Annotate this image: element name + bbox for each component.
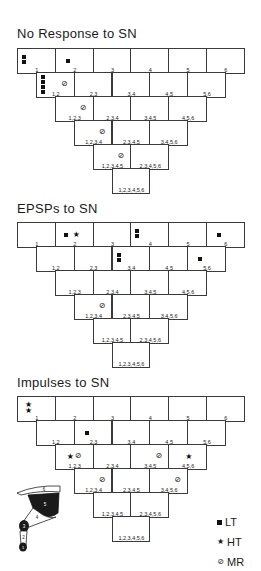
grid-cell: 1,2,3,4,5,6 [112, 168, 151, 194]
legend-label: LT [225, 516, 237, 528]
grid-cell: 1,2,3⊘ [55, 96, 94, 122]
lt-marker-icon [41, 90, 45, 94]
mr-marker-icon: ⊘ [99, 476, 106, 484]
grid-cell: 1,2,3,4,5 [93, 318, 132, 344]
grid-cell: 1★★ [17, 396, 56, 422]
slashed-circle-icon: ⊘ [216, 556, 225, 568]
grid-cell: 1,2 [36, 420, 75, 446]
grid-cell: 3,4,5 [130, 96, 169, 122]
grid-cell: 4,5 [149, 420, 188, 446]
mr-marker-icon: ⊘ [174, 476, 181, 484]
grid-cell: 3,4 [112, 72, 151, 98]
grid-cell: 1 [17, 48, 56, 74]
grid-cell: 1,2,3,4⊘ [74, 120, 113, 146]
grid-cell: 6 [206, 48, 245, 74]
grid-cell: 1,2,3,4⊘ [74, 294, 113, 320]
grid-cell: 2 [55, 48, 94, 74]
mr-marker-icon: ⊘ [99, 128, 106, 136]
mr-marker-icon: ⊘ [75, 452, 82, 460]
lt-marker-icon [66, 59, 70, 63]
ht-marker-icon: ★ [185, 453, 192, 461]
grid-cell: 4,5,6 [168, 96, 207, 122]
grid-cell: 4 [130, 222, 169, 248]
lt-marker-icon [64, 233, 68, 237]
grid-cell: 3,4,5⊘ [130, 444, 169, 470]
cell-label: 1,2,3,4,5,6 [118, 535, 144, 541]
grid-cell: 3,4 [112, 246, 151, 272]
grid-cell: 3 [93, 222, 132, 248]
grid-cell: 4,5 [149, 72, 188, 98]
legend-label: HT [227, 536, 242, 548]
ht-marker-icon: ★ [67, 453, 74, 461]
grid-cell: 1,2 [36, 246, 75, 272]
grid-cell: 2,3,4,5 [112, 294, 151, 320]
mr-marker-icon: ⊘ [118, 152, 125, 160]
grid-cell: 2,3,4,5,6 [130, 144, 169, 170]
legend-label: MR [227, 556, 244, 568]
legend-item-ht: ★ HT [216, 532, 244, 552]
grid-cell: 5 [168, 48, 207, 74]
section-title: EPSPs to SN [17, 201, 98, 216]
grid-cell: 1,2,3,4⊘ [74, 468, 113, 494]
grid-cell: 5,6 [187, 72, 226, 98]
grid-cell: 2,3,4,5 [112, 468, 151, 494]
grid-cell: 2,3 [74, 72, 113, 98]
grid-cell: 1,2,3,4,5,6 [112, 516, 151, 542]
grid-cell: 5 [168, 396, 207, 422]
grid-cell: 4,5,6 [168, 270, 207, 296]
mr-marker-icon: ⊘ [99, 302, 106, 310]
lt-marker-icon [217, 233, 221, 237]
square-icon [217, 520, 222, 525]
grid-cell: 2,3 [74, 420, 113, 446]
grid-cell: 6 [206, 222, 245, 248]
mr-marker-icon: ⊘ [155, 452, 162, 460]
grid-cell: 5 [168, 222, 207, 248]
star-icon: ★ [216, 536, 225, 548]
grid-cell: 4,5 [149, 246, 188, 272]
lt-marker-icon [117, 258, 121, 262]
ht-marker-icon: ★ [73, 231, 80, 239]
grid-cell: 1 [17, 222, 56, 248]
section-title: Impulses to SN [17, 375, 109, 390]
mr-marker-icon: ⊘ [61, 80, 68, 88]
lt-marker-icon [135, 229, 139, 233]
grid-cell: 3 [93, 48, 132, 74]
mr-marker-icon: ⊘ [80, 104, 87, 112]
grid-cell: 2,3,4 [93, 96, 132, 122]
grid-cell: 2,3,4,5 [112, 120, 151, 146]
grid-cell: 2 [55, 396, 94, 422]
grid-cell: 4,5,6★ [168, 444, 207, 470]
grid-cell: 3,4 [112, 420, 151, 446]
lt-marker-icon [41, 85, 45, 89]
grid-cell: 3,4,5,6 [149, 294, 188, 320]
limb-segment-diagram: 6 5 4 3 2 1 [15, 483, 65, 553]
lt-marker-icon [22, 55, 26, 59]
lt-marker-icon [41, 80, 45, 84]
grid-cell: 2,3,4 [93, 270, 132, 296]
grid-cell: 5,6 [187, 246, 226, 272]
legend: LT ★ HT ⊘ MR [216, 512, 244, 571]
grid-cell: 1,2,3 [55, 270, 94, 296]
grid-cell: 2,3,4,5,6 [130, 492, 169, 518]
lt-marker-icon [135, 234, 139, 238]
lt-marker-icon [198, 257, 202, 261]
grid-cell: 2,3,4,5,6 [130, 318, 169, 344]
legend-item-mr: ⊘ MR [216, 552, 244, 571]
grid-cell: 4 [130, 48, 169, 74]
grid-cell: 2,3,4 [93, 444, 132, 470]
grid-cell: 1,2,3,4,5⊘ [93, 144, 132, 170]
grid-cell: 3 [93, 396, 132, 422]
grid-cell: 1,2,3,4,5 [93, 492, 132, 518]
lt-marker-icon [117, 253, 121, 257]
grid-cell: 6 [206, 396, 245, 422]
grid-cell: 2★ [55, 222, 94, 248]
cell-label: 1,2,3,4,5,6 [118, 361, 144, 367]
ht-marker-icon: ★ [25, 407, 32, 415]
grid-cell: 4 [130, 396, 169, 422]
lt-marker-icon [22, 60, 26, 64]
grid-cell: 3,4,5,6 [149, 120, 188, 146]
cell-label: 1,2,3,4,5,6 [118, 187, 144, 193]
grid-cell: 2,3 [74, 246, 113, 272]
grid-cell: 1,2⊘ [36, 72, 75, 98]
grid-cell: 3,4,5,6⊘ [149, 468, 188, 494]
